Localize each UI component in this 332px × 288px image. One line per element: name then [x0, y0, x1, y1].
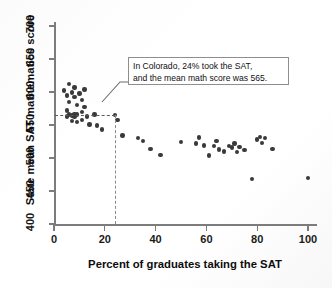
scatter-point	[65, 93, 69, 97]
y-axis-title: State mean SAT mathematics score	[24, 6, 36, 214]
plot-area	[54, 22, 316, 224]
x-tick-80	[257, 225, 258, 231]
scatter-point	[67, 100, 71, 104]
annotation-callout: In Colorado, 24% took the SAT, and the m…	[128, 57, 289, 85]
x-tick-100	[307, 225, 308, 231]
x-axis-title: Percent of graduates taking the SAT	[40, 258, 330, 270]
scatter-point	[270, 147, 274, 151]
x-tick-20	[104, 225, 105, 231]
scatter-point	[194, 141, 198, 145]
scatter-point	[80, 118, 84, 122]
scatter-point	[250, 177, 254, 181]
scatter-point	[202, 143, 206, 147]
scatter-point	[75, 120, 79, 124]
scatter-point	[222, 149, 226, 153]
x-tick-label-60: 60	[189, 233, 223, 245]
guide-line-horizontal	[55, 115, 115, 116]
x-tick-label-0: 0	[37, 233, 71, 245]
scatter-point	[115, 118, 119, 122]
scatter-point	[158, 153, 162, 157]
scatter-point	[214, 139, 218, 143]
scatter-point	[67, 82, 71, 86]
x-tick-label-40: 40	[139, 233, 173, 245]
scatter-point	[212, 144, 216, 148]
scatter-point	[70, 119, 74, 123]
scatter-point	[80, 98, 84, 102]
scatter-point	[217, 147, 221, 151]
scatter-point	[207, 153, 211, 157]
scatter-point	[230, 145, 234, 149]
annotation-line-2: and the mean math score was 565.	[133, 72, 285, 84]
scatter-point	[141, 139, 145, 143]
scatter-point	[75, 103, 79, 107]
guide-line-vertical	[115, 115, 116, 224]
sat-scatter-figure: 400450500550600650700 020406080100 In Co…	[0, 0, 332, 288]
scatter-point	[80, 110, 84, 114]
scatter-point	[72, 95, 76, 99]
scatter-point	[82, 105, 86, 109]
scatter-point	[72, 85, 76, 89]
scatter-point	[77, 91, 81, 95]
scatter-point	[263, 136, 267, 140]
scatter-point	[179, 140, 183, 144]
scatter-point	[260, 141, 264, 145]
scatter-point	[237, 145, 241, 149]
scatter-point	[232, 141, 236, 145]
scatter-point	[197, 135, 201, 139]
scatter-point	[136, 136, 140, 140]
x-tick-label-80: 80	[240, 233, 274, 245]
x-tick-label-100: 100	[291, 233, 325, 245]
scatter-point	[148, 147, 152, 151]
x-axis-line	[54, 224, 317, 226]
x-tick-40	[155, 225, 156, 231]
scatter-point	[100, 127, 104, 131]
scatter-point	[120, 133, 124, 137]
scatter-point	[258, 135, 262, 139]
scatter-point	[95, 123, 99, 127]
x-tick-60	[206, 225, 207, 231]
scatter-point	[87, 122, 91, 126]
x-tick-label-20: 20	[88, 233, 122, 245]
scatter-point	[306, 176, 310, 180]
x-tick-0	[53, 225, 54, 231]
scatter-point	[235, 150, 239, 154]
scatter-point	[82, 87, 86, 91]
annotation-line-1: In Colorado, 24% took the SAT,	[133, 60, 285, 72]
scatter-point	[242, 148, 246, 152]
